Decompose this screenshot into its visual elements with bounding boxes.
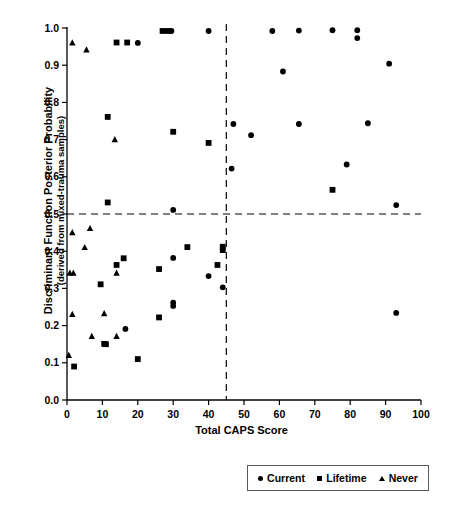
data-point-never	[113, 333, 119, 339]
data-point-lifetime	[156, 315, 162, 321]
data-point-never	[112, 136, 118, 142]
data-point-current	[170, 255, 176, 261]
legend-label-current: Current	[267, 472, 305, 484]
data-point-lifetime	[105, 114, 111, 120]
data-point-lifetime	[98, 281, 104, 287]
x-tick-label: 100	[412, 408, 430, 420]
data-point-lifetime	[184, 244, 190, 250]
scatter-plot-figure: 0.00.10.20.30.40.50.60.70.80.91.00102030…	[0, 0, 453, 514]
data-point-current	[386, 61, 392, 67]
data-point-current	[296, 28, 302, 34]
data-point-current	[330, 27, 336, 33]
data-point-never	[69, 39, 75, 45]
data-point-lifetime	[160, 28, 166, 34]
y-tick-label: 0.1	[44, 356, 59, 368]
y-tick-label: 0.2	[44, 319, 59, 331]
square-marker-icon	[317, 476, 322, 481]
data-point-lifetime	[156, 266, 162, 272]
data-point-current	[344, 162, 350, 168]
x-tick-label: 20	[132, 408, 144, 420]
data-point-current	[269, 28, 275, 34]
x-axis-label-text: Total CAPS Score	[195, 424, 288, 436]
legend-item-lifetime[interactable]: Lifetime	[317, 472, 366, 484]
x-tick-label: 90	[380, 408, 392, 420]
data-point-never	[87, 225, 93, 231]
circle-marker-icon	[258, 476, 263, 481]
y-tick-label: 0.6	[44, 170, 59, 182]
x-axis-label: Total CAPS Score	[0, 424, 453, 436]
y-tick-label: 0.9	[44, 59, 59, 71]
y-tick-label: 0.5	[44, 208, 59, 220]
x-tick-label: 70	[309, 408, 321, 420]
legend-label-never: Never	[389, 472, 418, 484]
x-tick-label: 0	[64, 408, 70, 420]
y-tick-label: 0.0	[44, 394, 59, 406]
data-point-lifetime	[135, 356, 141, 362]
data-point-lifetime	[105, 200, 111, 206]
data-point-current	[248, 132, 254, 138]
data-point-lifetime	[330, 187, 336, 193]
data-point-current	[123, 326, 129, 332]
data-point-current	[230, 121, 236, 127]
chart-legend: Current Lifetime Never	[247, 465, 429, 491]
data-point-never	[69, 311, 75, 317]
data-point-never	[83, 46, 89, 52]
y-tick-label: 0.7	[44, 133, 59, 145]
data-point-never	[101, 310, 107, 316]
data-point-current	[354, 27, 360, 33]
data-point-lifetime	[124, 40, 130, 46]
data-point-current	[170, 303, 176, 309]
x-tick-label: 10	[97, 408, 109, 420]
data-point-current	[229, 166, 235, 172]
data-point-lifetime	[114, 40, 120, 46]
x-tick-label: 50	[238, 408, 250, 420]
data-point-current	[206, 28, 212, 34]
legend-item-current[interactable]: Current	[258, 472, 305, 484]
y-tick-label: 0.3	[44, 282, 59, 294]
data-point-lifetime	[220, 247, 226, 253]
data-point-current	[393, 202, 399, 208]
x-tick-label: 80	[344, 408, 356, 420]
data-point-current	[354, 35, 360, 41]
data-point-current	[296, 121, 302, 127]
data-point-never	[113, 270, 119, 276]
data-point-lifetime	[71, 364, 77, 370]
x-tick-label: 30	[167, 408, 179, 420]
data-point-current	[135, 40, 141, 46]
x-tick-label: 60	[274, 408, 286, 420]
data-point-lifetime	[215, 262, 221, 268]
data-point-current	[393, 310, 399, 316]
data-point-never	[69, 229, 75, 235]
data-point-lifetime	[170, 129, 176, 135]
data-point-current	[220, 284, 226, 290]
data-point-lifetime	[206, 140, 212, 146]
data-point-lifetime	[103, 341, 109, 347]
legend-label-lifetime: Lifetime	[326, 472, 366, 484]
y-tick-label: 1.0	[44, 22, 59, 34]
data-point-never	[89, 333, 95, 339]
data-point-never	[82, 244, 88, 250]
data-point-current	[280, 69, 286, 75]
y-tick-label: 0.4	[44, 245, 59, 257]
y-tick-label: 0.8	[44, 96, 59, 108]
legend-item-never[interactable]: Never	[379, 472, 418, 484]
data-point-current	[170, 207, 176, 213]
data-point-current	[365, 120, 371, 126]
data-point-lifetime	[165, 28, 171, 34]
x-tick-label: 40	[203, 408, 215, 420]
plot-canvas: 0.00.10.20.30.40.50.60.70.80.91.00102030…	[0, 0, 453, 514]
data-point-lifetime	[114, 262, 120, 268]
data-points-group	[66, 27, 400, 369]
data-point-current	[206, 273, 212, 279]
data-point-lifetime	[121, 255, 127, 261]
triangle-marker-icon	[379, 476, 385, 481]
